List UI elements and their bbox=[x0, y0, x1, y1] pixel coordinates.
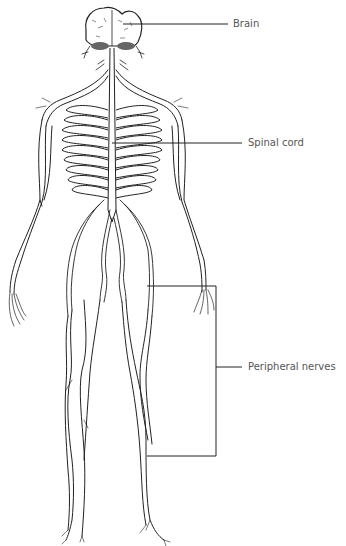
left-leg-nerves bbox=[62, 300, 100, 544]
right-leg-nerves bbox=[122, 300, 170, 546]
spinal-cord-illustration bbox=[108, 48, 116, 222]
peripheral-nerves-label: Peripheral nerves bbox=[248, 361, 336, 373]
peripheral-nerves-bracket bbox=[147, 286, 216, 456]
brain-label: Brain bbox=[233, 18, 259, 30]
spinal-cord-label: Spinal cord bbox=[248, 137, 304, 149]
right-arm-nerves bbox=[172, 120, 214, 314]
left-arm-nerves bbox=[9, 120, 52, 326]
nervous-system-figure bbox=[0, 0, 346, 546]
